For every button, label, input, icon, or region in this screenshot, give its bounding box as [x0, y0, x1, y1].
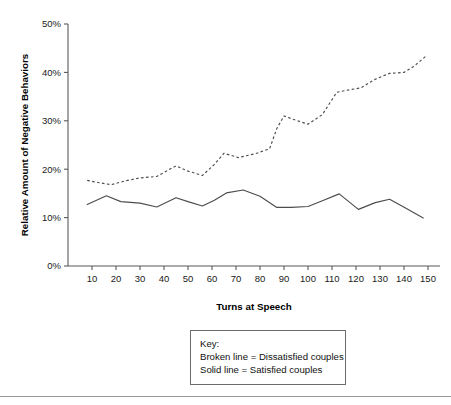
y-tick-label: 40% [42, 67, 62, 78]
y-tick-label: 0% [47, 260, 61, 271]
series-dashed [87, 56, 425, 184]
x-tick-label: 60 [207, 273, 218, 284]
x-tick-label: 50 [183, 273, 194, 284]
x-tick-label: 150 [420, 273, 436, 284]
y-axis-title: Relative Amount of Negative Behaviors [19, 53, 30, 236]
y-tick-label: 20% [42, 164, 62, 175]
x-tick-label: 120 [348, 273, 364, 284]
x-tick-label: 140 [396, 273, 412, 284]
y-tick-label: 30% [42, 115, 62, 126]
x-axis-title: Turns at Speech [216, 301, 292, 312]
series-solid [87, 190, 423, 218]
x-tick-label: 40 [159, 273, 170, 284]
legend-entry-solid: Solid line = Satisfied couples [200, 363, 336, 376]
y-tick-label: 10% [42, 212, 62, 223]
footer-divider [0, 396, 451, 397]
x-tick-label: 130 [372, 273, 388, 284]
legend-title: Key: [200, 337, 336, 350]
chart-legend: Key: Broken line = Dissatisfied couples … [190, 330, 346, 385]
x-tick-label: 80 [255, 273, 266, 284]
x-tick-label: 90 [279, 273, 290, 284]
x-tick-label: 20 [111, 273, 122, 284]
legend-entry-dashed: Broken line = Dissatisfied couples [200, 350, 336, 363]
x-tick-label: 30 [135, 273, 146, 284]
y-tick-label: 50% [42, 18, 62, 29]
x-tick-label: 10 [87, 273, 98, 284]
x-tick-label: 110 [324, 273, 339, 284]
chart-figure: 0%10%20%30%40%50%10203040506070809010011… [0, 0, 451, 405]
x-tick-label: 70 [231, 273, 242, 284]
x-tick-label: 100 [300, 273, 316, 284]
